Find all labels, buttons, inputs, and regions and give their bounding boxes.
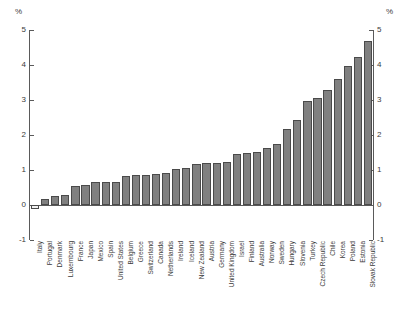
- bar: [263, 148, 271, 205]
- x-axis-label: Chile: [330, 241, 337, 256]
- x-axis-label: Turkey: [310, 241, 317, 261]
- y-tick-label-right--1: -1: [377, 236, 399, 244]
- y-tick-label-right-5: 5: [377, 26, 399, 34]
- x-axis-label: Austria: [209, 241, 216, 261]
- bar: [223, 162, 231, 205]
- bar: [81, 185, 89, 205]
- bar: [233, 154, 241, 205]
- bar: [71, 186, 79, 205]
- bar: [142, 175, 150, 205]
- x-axis-label: Slovak Republic: [370, 241, 377, 288]
- x-axis-label: Australia: [259, 241, 266, 266]
- x-axis-label: Spain: [108, 241, 115, 258]
- bar: [273, 144, 281, 205]
- x-axis-label: Hungary: [289, 241, 296, 266]
- y-tick-label-left-0: 0: [4, 201, 26, 209]
- y-axis-unit-label-right: %: [386, 8, 393, 16]
- y-axis-unit-label-left: %: [15, 8, 22, 16]
- bar: [213, 163, 221, 205]
- x-axis-label: Sweden: [279, 241, 286, 265]
- x-axis-label: Israel: [239, 241, 246, 257]
- y-tick-label-left-4: 4: [4, 61, 26, 69]
- bar: [202, 163, 210, 205]
- bar: [162, 173, 170, 205]
- x-axis-label: Estonia: [360, 241, 367, 263]
- bar: [122, 176, 130, 205]
- x-axis-label: Czech Republic: [320, 241, 327, 287]
- y-tick-label-left-3: 3: [4, 96, 26, 104]
- x-axis-label: Portugal: [47, 241, 54, 265]
- bar: [293, 120, 301, 205]
- bar: [253, 152, 261, 205]
- x-axis-label: Belgium: [128, 241, 135, 264]
- x-axis-label: Greece: [138, 241, 145, 262]
- bar: [112, 182, 120, 205]
- x-axis-label: Poland: [350, 241, 357, 261]
- y-tick-label-right-4: 4: [377, 61, 399, 69]
- bar-chart: % % -1-1001122334455 ItalyPortugalDenmar…: [0, 0, 409, 314]
- bar: [31, 205, 39, 209]
- bar: [102, 182, 110, 205]
- x-axis-label: Korea: [340, 241, 347, 258]
- bar: [354, 57, 362, 205]
- bar: [132, 175, 140, 205]
- y-tick-label-left--1: -1: [4, 236, 26, 244]
- bar: [303, 101, 311, 205]
- y-tick-label-right-2: 2: [377, 131, 399, 139]
- x-axis-label: Netherlands: [168, 241, 175, 276]
- bar: [51, 196, 59, 205]
- bar: [344, 66, 352, 205]
- x-axis-label: Japan: [88, 241, 95, 259]
- x-axis-label: United States: [118, 241, 125, 280]
- x-axis-label: Norway: [269, 241, 276, 263]
- x-axis-label: Denmark: [57, 241, 64, 267]
- x-axis-label: United Kingdom: [229, 241, 236, 287]
- y-tick-label-right-3: 3: [377, 96, 399, 104]
- bar: [172, 169, 180, 205]
- plot-area: -1-1001122334455: [29, 30, 374, 240]
- x-axis-label: Mexico: [98, 241, 105, 262]
- x-axis-label: Slovenia: [300, 241, 307, 266]
- bar: [313, 98, 321, 205]
- bar: [283, 129, 291, 205]
- bar: [182, 168, 190, 205]
- bar-series: [30, 30, 373, 240]
- bar: [61, 195, 69, 206]
- y-tick-label-left-2: 2: [4, 131, 26, 139]
- x-axis-label: Germany: [219, 241, 226, 268]
- y-tick-label-left-1: 1: [4, 166, 26, 174]
- y-tick-label-right-0: 0: [377, 201, 399, 209]
- x-axis-label: Iceland: [189, 241, 196, 262]
- x-axis-label: Switzerland: [148, 241, 155, 275]
- bar: [243, 153, 251, 205]
- bar: [152, 174, 160, 205]
- y-tick-label-left-5: 5: [4, 26, 26, 34]
- x-axis-label: Ireland: [178, 241, 185, 261]
- x-axis-label: Italy: [37, 241, 44, 253]
- bar: [192, 164, 200, 205]
- bar: [91, 182, 99, 205]
- y-axis-right-spine: [373, 30, 374, 240]
- bar: [334, 79, 342, 205]
- x-axis-label: Finland: [249, 241, 256, 262]
- bar: [323, 90, 331, 205]
- bar: [364, 41, 372, 205]
- x-axis-category-labels: ItalyPortugalDenmarkLuxembourgFranceJapa…: [29, 241, 374, 314]
- x-axis-label: France: [78, 241, 85, 261]
- y-tick-label-right-1: 1: [377, 166, 399, 174]
- x-axis-label: Canada: [158, 241, 165, 264]
- bar: [41, 199, 49, 205]
- x-axis-label: New Zealand: [199, 241, 206, 279]
- x-axis-label: Luxembourg: [68, 241, 75, 277]
